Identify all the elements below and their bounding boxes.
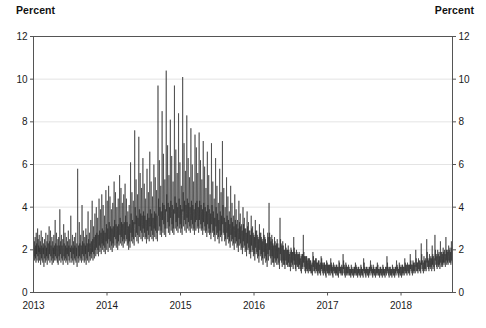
svg-text:12: 12 bbox=[16, 31, 28, 42]
svg-text:6: 6 bbox=[22, 159, 28, 170]
svg-text:8: 8 bbox=[459, 116, 465, 127]
svg-text:2014: 2014 bbox=[96, 300, 119, 311]
svg-text:0: 0 bbox=[459, 287, 465, 298]
svg-text:4: 4 bbox=[22, 202, 28, 213]
svg-text:8: 8 bbox=[22, 116, 28, 127]
svg-text:2015: 2015 bbox=[169, 300, 192, 311]
y2-axis-ticks: 024681012 bbox=[453, 31, 471, 298]
chart-figure: Percent Percent 024681012 024681012 2013… bbox=[0, 0, 486, 328]
svg-text:6: 6 bbox=[459, 159, 465, 170]
svg-text:12: 12 bbox=[459, 31, 471, 42]
svg-text:2: 2 bbox=[459, 244, 465, 255]
svg-text:2016: 2016 bbox=[243, 300, 266, 311]
svg-text:2018: 2018 bbox=[390, 300, 413, 311]
svg-text:0: 0 bbox=[22, 287, 28, 298]
svg-text:2013: 2013 bbox=[22, 300, 45, 311]
timeseries-line-chart: 024681012 024681012 20132014201520162017… bbox=[0, 0, 486, 328]
series-line-layer bbox=[34, 71, 453, 278]
svg-text:2: 2 bbox=[22, 244, 28, 255]
svg-text:4: 4 bbox=[459, 202, 465, 213]
svg-text:10: 10 bbox=[16, 74, 28, 85]
svg-text:2017: 2017 bbox=[316, 300, 339, 311]
plot-area: 024681012 024681012 20132014201520162017… bbox=[0, 0, 486, 328]
x-axis-ticks: 201320142015201620172018 bbox=[22, 293, 412, 311]
y-axis-ticks: 024681012 bbox=[16, 31, 33, 298]
svg-text:10: 10 bbox=[459, 74, 471, 85]
